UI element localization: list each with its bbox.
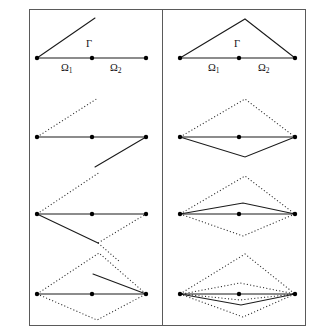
row-4-left-group: [35, 253, 148, 320]
row-3-right-dotted-edge-0: [180, 176, 295, 214]
row-4-left-node-0: [35, 292, 39, 296]
row-2-right-group: [178, 99, 297, 157]
row-4-left-node-1: [90, 292, 94, 296]
row-3-right-node-1: [237, 212, 241, 216]
row-3-left-group: [35, 172, 148, 262]
row-3-left-node-0: [35, 212, 39, 216]
label-omega1-left: Ω1: [61, 63, 73, 74]
row-3-left-solid-edge-0: [37, 214, 98, 243]
label-gamma-right: Γ: [234, 39, 240, 50]
figure-frame: [30, 10, 306, 326]
row-2-right-solid-edge-0: [180, 137, 295, 157]
row-4-left-dotted-edge-1: [37, 294, 146, 320]
figure-container: Γ Ω1 Ω2 Γ Ω1 Ω2: [0, 0, 321, 334]
row-3-right-dotted-edge-1: [180, 214, 295, 236]
label-omega1-right: Ω1: [208, 63, 220, 74]
row-2-left-dotted-edge-0: [37, 98, 98, 137]
row-4-right-node-2: [293, 292, 297, 296]
row-4-right-group: [178, 254, 297, 317]
row-2-left-node-2: [144, 135, 148, 139]
row-1-left-node-0: [35, 56, 39, 60]
row-3-left-dotted-edge-2: [98, 243, 120, 262]
row-3-right-node-2: [293, 212, 297, 216]
label-omega2-left: Ω2: [110, 63, 122, 74]
row-2-right-dotted-edge-0: [180, 99, 295, 137]
row-4-right-node-0: [178, 292, 182, 296]
diagram-canvas: [0, 0, 321, 334]
outer-frame-rect: [30, 10, 306, 326]
row-2-left-group: [35, 98, 148, 167]
row-4-left-solid-edge-0: [93, 274, 146, 294]
row-2-left-solid-edge-0: [95, 137, 146, 167]
label-omega2-right: Ω2: [258, 63, 270, 74]
row-3-left-node-2: [144, 212, 148, 216]
row-4-right-node-1: [237, 292, 241, 296]
row-3-right-node-0: [178, 212, 182, 216]
row-1-right-node-0: [178, 56, 182, 60]
row-1-left-node-2: [144, 56, 148, 60]
row-3-left-dotted-edge-0: [37, 172, 100, 214]
row-2-left-node-1: [90, 135, 94, 139]
row-3-left-dotted-edge-1: [98, 214, 146, 243]
row-2-right-node-2: [293, 135, 297, 139]
row-3-right-group: [178, 176, 297, 236]
row-1-left-node-1: [90, 56, 94, 60]
row-4-left-node-2: [144, 292, 148, 296]
row-3-right-solid-edge-0: [180, 203, 295, 214]
row-1-right-node-1: [237, 56, 241, 60]
row-1-right-node-2: [293, 56, 297, 60]
row-4-right-dotted-edge-0: [180, 254, 295, 294]
row-3-left-node-1: [90, 212, 94, 216]
row-2-right-node-1: [237, 135, 241, 139]
row-2-right-node-0: [178, 135, 182, 139]
row-2-left-node-0: [35, 135, 39, 139]
label-gamma-left: Γ: [86, 39, 92, 50]
